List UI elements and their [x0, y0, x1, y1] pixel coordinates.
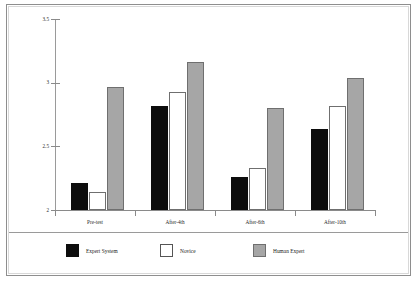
x-axis-tick-label: After-6th	[215, 219, 295, 225]
bar-novice-0	[89, 192, 106, 210]
x-axis-tick	[135, 210, 136, 216]
x-axis-tick	[55, 210, 56, 216]
bar-expert-3	[311, 129, 328, 210]
legend-item: Human Expert	[253, 244, 305, 257]
chart-figure: 22.533.5 Pre-testAfter-4thAfter-6thAfter…	[0, 0, 417, 283]
bar-expert-0	[71, 183, 88, 210]
y-axis-tick	[51, 83, 60, 84]
y-axis-tick-label: 2	[29, 207, 49, 213]
black-square-swatch	[66, 244, 79, 257]
legend-item: Expert System	[66, 244, 118, 257]
legend-item: Novice	[160, 244, 196, 257]
bar-human-1	[187, 62, 204, 210]
legend-item-label: Novice	[180, 248, 196, 254]
legend-item-label: Human Expert	[273, 248, 305, 254]
bar-novice-3	[329, 106, 346, 210]
bar-expert-1	[151, 106, 168, 210]
bar-human-3	[347, 78, 364, 210]
y-axis-tick	[51, 146, 60, 147]
white-square-swatch	[160, 244, 173, 257]
bar-novice-2	[249, 168, 266, 210]
legend-item-label: Expert System	[86, 248, 118, 254]
gray-square-swatch	[253, 244, 266, 257]
x-axis-tick-label: After-10th	[295, 219, 375, 225]
x-axis-tick	[295, 210, 296, 216]
x-axis-tick	[375, 210, 376, 216]
y-axis-tick	[51, 19, 60, 20]
chart-legend: Expert System Novice Human Expert	[0, 240, 417, 270]
plot-area: 22.533.5 Pre-testAfter-4thAfter-6thAfter…	[55, 19, 375, 210]
y-axis-tick-label: 3	[29, 79, 49, 85]
bar-expert-2	[231, 177, 248, 210]
y-axis-line	[55, 19, 56, 210]
x-axis-tick	[215, 210, 216, 216]
bar-human-2	[267, 108, 284, 210]
legend-divider	[9, 232, 408, 233]
bar-novice-1	[169, 92, 186, 210]
y-axis-tick-label: 2.5	[29, 143, 49, 149]
x-axis-tick-label: After-4th	[135, 219, 215, 225]
bar-human-0	[107, 87, 124, 211]
x-axis-tick-label: Pre-test	[55, 219, 135, 225]
y-axis-tick-label: 3.5	[29, 16, 49, 22]
